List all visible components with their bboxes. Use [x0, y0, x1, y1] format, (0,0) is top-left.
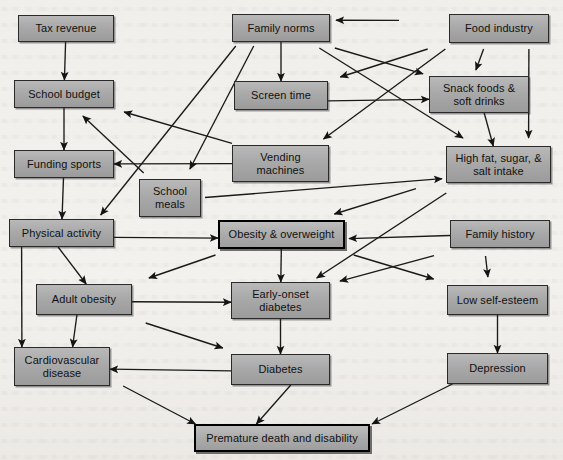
edge-vending-to-school_budget [124, 112, 232, 143]
node-label: Adult obesity [52, 293, 116, 306]
node-depression[interactable]: Depression [447, 353, 548, 384]
diagram-canvas: Tax revenueSchool budgetFunding sportsPh… [0, 0, 563, 460]
node-label: Family norms [247, 22, 314, 35]
node-label: Physical activity [22, 227, 101, 240]
edge-funding_sports-to-physical_activity [62, 178, 64, 219]
edge-diabetes-to-cardiovascular [110, 369, 231, 371]
node-label: Obesity & overweight [229, 228, 335, 241]
node-label: Vendingmachines [257, 151, 305, 177]
node-family_history[interactable]: Family history [450, 220, 550, 248]
edge-food_industry-to-snack_foods [476, 49, 484, 70]
node-label: School budget [28, 88, 100, 101]
edge-adult_obesity-to-diabetes [146, 323, 223, 348]
node-premature_death[interactable]: Premature death and disability [194, 424, 370, 452]
edge-diabetes-to-premature_death [256, 385, 290, 424]
node-label: High fat, sugar, &salt intake [455, 152, 541, 178]
edge-family_history-to-low_self_esteem [486, 256, 488, 277]
node-label: Funding sports [27, 158, 101, 171]
node-label: Low self-esteem [457, 294, 539, 307]
edge-family_history-to-obesity [349, 236, 450, 239]
node-label: Tax revenue [35, 22, 96, 35]
node-label: Snack foods &soft drinks [443, 82, 515, 108]
edge-physical_activity-to-obesity [114, 237, 218, 238]
node-label: Food industry [465, 22, 533, 35]
node-funding_sports[interactable]: Funding sports [14, 150, 114, 178]
node-school_budget[interactable]: School budget [14, 80, 114, 108]
node-school_meals[interactable]: Schoolmeals [139, 179, 201, 217]
node-low_self_esteem[interactable]: Low self-esteem [447, 285, 548, 315]
node-label: Premature death and disability [206, 432, 358, 445]
node-adult_obesity[interactable]: Adult obesity [36, 284, 132, 315]
edge-depression-to-premature_death [372, 384, 452, 424]
edge-tax_revenue-to-school_budget [64, 42, 65, 80]
node-obesity[interactable]: Obesity & overweight [218, 220, 345, 249]
edge-adult_obesity-to-cardiovascular [73, 315, 77, 347]
node-early_diabetes[interactable]: Early-onsetdiabetes [231, 282, 330, 319]
node-label: Early-onsetdiabetes [252, 288, 309, 314]
node-physical_activity[interactable]: Physical activity [9, 219, 114, 247]
node-label: Depression [469, 362, 526, 375]
node-cardiovascular[interactable]: Cardiovasculardisease [14, 347, 110, 386]
edge-family_history-to-early_diabetes [340, 256, 434, 282]
node-label: Diabetes [258, 363, 302, 376]
node-label: Schoolmeals [153, 185, 187, 211]
node-diabetes[interactable]: Diabetes [231, 354, 330, 385]
edge-adult_obesity-to-early_diabetes [132, 302, 231, 303]
edge-snack_foods-to-high_fat [484, 113, 493, 146]
node-tax_revenue[interactable]: Tax revenue [18, 15, 114, 42]
edge-screen_time-to-snack_foods [328, 99, 429, 101]
edge-cardiovascular-to-premature_death [123, 386, 195, 424]
node-snack_foods[interactable]: Snack foods &soft drinks [429, 76, 529, 113]
node-label: Cardiovasculardisease [25, 354, 100, 380]
edge-obesity-to-early_diabetes [281, 249, 282, 282]
edge-high_fat-to-obesity [334, 189, 416, 214]
edge-obesity-to-adult_obesity [149, 255, 216, 278]
node-vending[interactable]: Vendingmachines [232, 145, 329, 182]
edge-family_norms-to-snack_foods [335, 48, 423, 74]
node-label: Screen time [251, 89, 311, 102]
node-screen_time[interactable]: Screen time [234, 81, 328, 110]
node-food_industry[interactable]: Food industry [449, 14, 549, 43]
node-high_fat[interactable]: High fat, sugar, &salt intake [446, 146, 551, 183]
node-label: Family history [465, 228, 534, 241]
node-family_norms[interactable]: Family norms [232, 14, 330, 42]
edge-physical_activity-to-adult_obesity [58, 247, 86, 284]
